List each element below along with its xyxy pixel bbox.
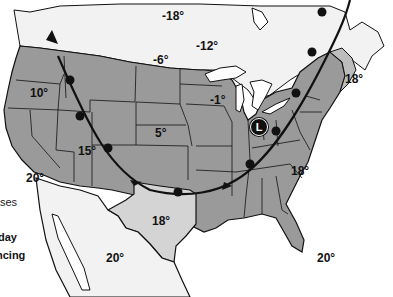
- temp-label: 10°: [30, 87, 48, 99]
- temp-label: 20°: [317, 252, 335, 264]
- temp-label: 20°: [106, 252, 124, 264]
- side-text-line1: ses: [0, 197, 17, 208]
- low-pressure-marker: L: [250, 118, 268, 136]
- temp-label: -1°: [210, 94, 225, 106]
- temp-label: 18°: [152, 215, 170, 227]
- temp-label: 5°: [155, 127, 166, 139]
- side-text-line2: day: [0, 232, 17, 243]
- temp-label: -6°: [153, 54, 168, 66]
- side-text-line3: ncing: [0, 250, 25, 261]
- temp-label: 18°: [345, 73, 363, 85]
- temp-label: 20°: [26, 172, 44, 184]
- temp-label: -12°: [196, 40, 218, 52]
- temp-label: -18°: [162, 10, 184, 22]
- temp-label: 18°: [291, 165, 309, 177]
- temp-label: 15°: [78, 145, 96, 157]
